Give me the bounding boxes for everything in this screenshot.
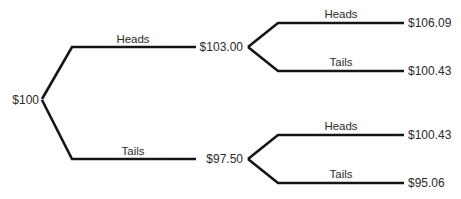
edge-label-root-up: Heads xyxy=(116,33,149,46)
edge-root-to-up xyxy=(42,47,196,99)
node-value-up-down: $100.43 xyxy=(408,65,451,78)
edge-root-to-down xyxy=(42,100,196,159)
tree-edges-canvas xyxy=(0,0,461,199)
edge-label-up-up: Heads xyxy=(324,8,357,21)
node-value-down-up: $100.43 xyxy=(408,129,451,142)
edge-label-down-down: Tails xyxy=(329,168,352,181)
edge-label-up-down: Tails xyxy=(329,56,352,69)
edge-label-down-up: Heads xyxy=(324,120,357,133)
edge-label-root-down: Tails xyxy=(121,145,144,158)
node-value-down: $97.50 xyxy=(206,153,243,166)
node-value-up-up: $106.09 xyxy=(408,17,451,30)
edge-up-to-updown xyxy=(248,47,404,71)
binomial-tree-diagram: $100 $103.00 $97.50 $106.09 $100.43 $100… xyxy=(0,0,461,199)
edge-up-to-upup xyxy=(248,23,404,47)
edge-down-to-downup xyxy=(248,135,404,159)
edge-down-to-downdown xyxy=(248,159,404,183)
node-value-down-down: $95.06 xyxy=(408,177,445,190)
node-value-up: $103.00 xyxy=(200,41,243,54)
node-value-root: $100 xyxy=(12,94,39,107)
